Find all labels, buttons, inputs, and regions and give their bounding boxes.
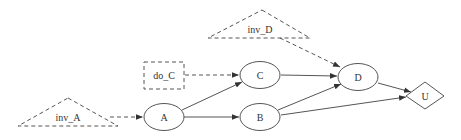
node-label: do_C [153, 70, 175, 81]
node-B[interactable]: B [240, 104, 280, 131]
node-label: D [354, 72, 361, 83]
node-U[interactable]: U [406, 82, 444, 109]
edge-B-to-D [278, 84, 341, 110]
node-label: C [257, 70, 264, 81]
node-do_C[interactable]: do_C [144, 62, 184, 89]
influence-diagram: inv_A do_C inv_D A C B D U [0, 0, 461, 140]
edge-A-to-C [182, 82, 242, 110]
node-label: A [160, 112, 168, 123]
node-label: B [257, 112, 264, 123]
edge-D-to-U [378, 83, 411, 92]
node-A[interactable]: A [144, 104, 184, 131]
node-label: inv_D [248, 24, 273, 35]
node-inv_D[interactable]: inv_D [208, 10, 310, 38]
edge-B-to-U [281, 97, 406, 115]
edge-C-to-D [281, 75, 337, 76]
node-inv_A[interactable]: inv_A [18, 98, 118, 126]
node-D[interactable]: D [338, 64, 378, 91]
edge-inv_D-to-D [280, 38, 340, 67]
node-label: U [421, 91, 429, 102]
node-C[interactable]: C [240, 62, 280, 89]
node-label: inv_A [56, 112, 82, 123]
